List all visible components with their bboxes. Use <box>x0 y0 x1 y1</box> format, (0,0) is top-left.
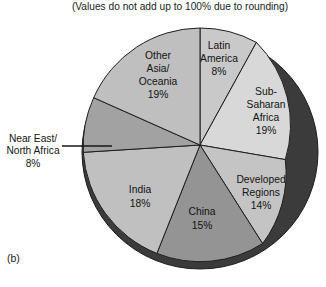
svg-text:Regions: Regions <box>242 187 280 198</box>
svg-text:19%: 19% <box>148 89 169 100</box>
svg-text:India: India <box>129 184 152 195</box>
svg-text:14%: 14% <box>251 200 272 211</box>
svg-text:Developed: Developed <box>236 174 286 185</box>
svg-text:Latin: Latin <box>208 40 231 51</box>
svg-text:Oceania: Oceania <box>139 76 178 87</box>
near-east-line-1: Near East/ <box>2 133 64 145</box>
svg-text:China: China <box>189 206 216 217</box>
near-east-line-2: North Africa <box>2 145 64 157</box>
svg-text:Asia/: Asia/ <box>147 63 170 74</box>
svg-text:Africa: Africa <box>253 112 280 123</box>
svg-text:18%: 18% <box>130 198 151 209</box>
pie-chart-figure: (Values do not add up to 100% due to rou… <box>0 0 326 287</box>
svg-text:8%: 8% <box>212 66 227 77</box>
panel-label: (b) <box>7 252 20 264</box>
svg-text:15%: 15% <box>192 220 213 231</box>
svg-text:America: America <box>200 53 238 64</box>
svg-text:19%: 19% <box>256 125 277 136</box>
label-near-east-north-africa: Near East/ North Africa 8% <box>2 133 64 170</box>
near-east-value: 8% <box>2 158 64 170</box>
svg-text:Sub-: Sub- <box>255 86 277 97</box>
svg-text:Saharan: Saharan <box>247 99 286 110</box>
svg-text:Other: Other <box>145 50 171 61</box>
